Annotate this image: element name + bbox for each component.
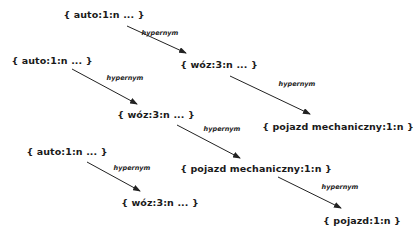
node-auto-2: { auto:1:n ... } bbox=[11, 55, 92, 66]
hypernym-diagram: { auto:1:n ... } { wóz:3:n ... } { pojaz… bbox=[0, 0, 413, 235]
edge-label-hypernym: hypernym bbox=[114, 164, 151, 172]
edge-label-hypernym: hypernym bbox=[107, 74, 144, 82]
node-woz-1: { wóz:3:n ... } bbox=[180, 59, 258, 70]
hypernym-arrow bbox=[278, 177, 341, 208]
node-woz-2: { wóz:3:n ... } bbox=[117, 109, 195, 120]
node-auto-1: { auto:1:n ... } bbox=[63, 9, 144, 20]
edge-label-hypernym: hypernym bbox=[322, 183, 359, 191]
node-auto-3: { auto:1:n ... } bbox=[26, 146, 107, 157]
node-pojazd-mechaniczny-1: { pojazd mechaniczny:1:n } bbox=[262, 121, 413, 132]
edges-layer bbox=[0, 0, 413, 235]
edge-label-hypernym: hypernym bbox=[279, 80, 316, 88]
edge-label-hypernym: hypernym bbox=[204, 125, 241, 133]
edge-label-hypernym: hypernym bbox=[142, 29, 179, 37]
node-pojazd: { pojazd:1:n } bbox=[323, 215, 401, 226]
node-pojazd-mechaniczny-2: { pojazd mechaniczny:1:n } bbox=[180, 163, 332, 174]
node-woz-3: { wóz:3:n ... } bbox=[121, 197, 199, 208]
